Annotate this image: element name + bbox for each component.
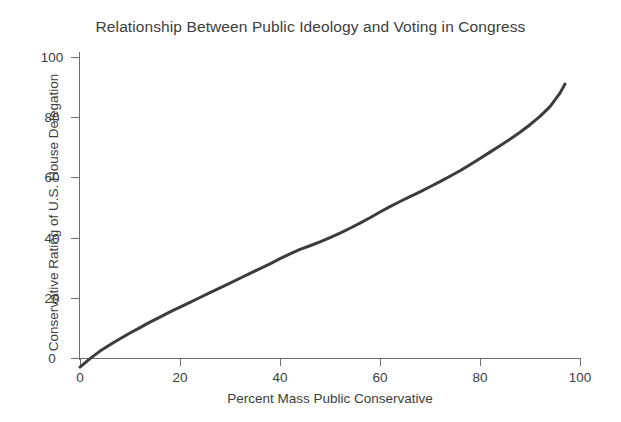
x-axis-spine [79, 358, 581, 359]
y-tick-60 [71, 177, 79, 178]
x-tick-0 [80, 358, 81, 366]
data-line-series-0 [80, 84, 565, 367]
x-tick-label-100: 100 [560, 370, 600, 385]
x-tick-20 [180, 358, 181, 366]
y-tick-0 [71, 358, 79, 359]
y-axis-spine [79, 52, 80, 360]
x-axis-title: Percent Mass Public Conservative [79, 391, 581, 406]
x-tick-label-20: 20 [160, 370, 200, 385]
x-tick-label-40: 40 [260, 370, 300, 385]
y-tick-80 [71, 117, 79, 118]
x-tick-label-80: 80 [460, 370, 500, 385]
plot-area: 0 20 40 60 80 100 0 20 40 60 80 100 Con [0, 0, 621, 422]
x-tick-80 [480, 358, 481, 366]
y-tick-40 [71, 238, 79, 239]
y-tick-100 [71, 57, 79, 58]
x-tick-label-0: 0 [60, 370, 100, 385]
chart-figure: Relationship Between Public Ideology and… [0, 0, 621, 422]
x-tick-40 [280, 358, 281, 366]
x-tick-100 [580, 358, 581, 366]
y-tick-20 [71, 298, 79, 299]
y-axis-title: Conservative Rating of U.S. House Delega… [46, 48, 61, 378]
x-tick-60 [380, 358, 381, 366]
x-tick-label-60: 60 [360, 370, 400, 385]
